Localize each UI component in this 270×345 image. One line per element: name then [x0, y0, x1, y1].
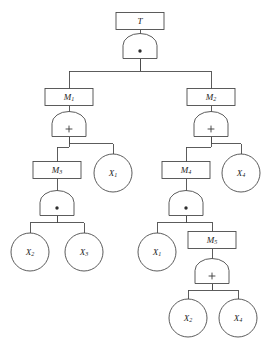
edge-G3-to-X4a	[211, 137, 241, 155]
edge-G1-to-M1	[69, 59, 140, 89]
edge-G3-to-M4	[186, 137, 211, 162]
node-G2[interactable]	[52, 112, 86, 137]
node-M3[interactable]: M3	[33, 162, 81, 179]
node-G3[interactable]	[194, 112, 228, 137]
edge-G5-to-X1b	[157, 216, 186, 234]
node-G5[interactable]	[169, 191, 203, 216]
edge-G2-to-M3	[57, 137, 69, 162]
node-M1[interactable]: M1	[45, 89, 93, 106]
and-gate-shape	[123, 34, 157, 59]
node-M5[interactable]: M5	[188, 232, 236, 249]
or-gate-shape	[194, 112, 228, 137]
node-M4[interactable]: M4	[162, 162, 210, 179]
node-G6[interactable]	[195, 259, 229, 284]
and-operator-icon	[55, 206, 58, 209]
edge-G5-to-M5	[186, 216, 212, 232]
or-gate-shape	[195, 259, 229, 284]
fault-tree-diagram: TM1M2M3X1M4X4X2X3X1M5X2X4	[0, 0, 270, 345]
edge-G4-to-X2a	[30, 216, 57, 234]
node-layer: TM1M2M3X1M4X4X2X3X1M5X2X4	[11, 13, 260, 338]
fault-tree-canvas: TM1M2M3X1M4X4X2X3X1M5X2X4	[0, 0, 270, 345]
node-X4b[interactable]: X4	[219, 299, 257, 337]
and-gate-shape	[40, 191, 74, 216]
edge-G4-to-X3	[57, 216, 84, 234]
edge-G1-to-M2	[140, 59, 211, 89]
edge-G6-to-X2b	[188, 284, 212, 300]
node-X3[interactable]: X3	[65, 233, 103, 271]
or-gate-shape	[52, 112, 86, 137]
node-X2b[interactable]: X2	[169, 299, 207, 337]
edge-G2-to-X1a	[69, 137, 113, 155]
node-M2[interactable]: M2	[187, 89, 235, 106]
and-operator-icon	[138, 49, 141, 52]
node-G1[interactable]	[123, 34, 157, 59]
and-operator-icon	[184, 206, 187, 209]
node-X4a[interactable]: X4	[222, 154, 260, 192]
and-gate-shape	[169, 191, 203, 216]
node-X1b[interactable]: X1	[138, 233, 176, 271]
node-X1a[interactable]: X1	[94, 154, 132, 192]
edge-G6-to-X4b	[212, 284, 238, 300]
node-G4[interactable]	[40, 191, 74, 216]
node-T[interactable]: T	[116, 13, 164, 30]
node-X2a[interactable]: X2	[11, 233, 49, 271]
